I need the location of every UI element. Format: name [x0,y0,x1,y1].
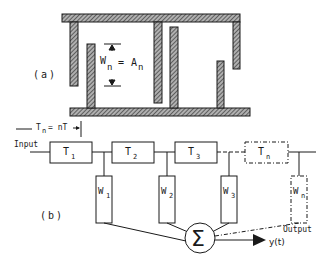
svg-text:1: 1 [71,153,75,161]
interdigital-transducer: W n = A n (a) [33,14,250,116]
tapped-delay-line: T n = nT Input T 1 T 2 T 3 T n W 1 [14,121,316,253]
part-b-label: (b) [40,210,64,221]
electrode-width-label: W [100,55,107,66]
svg-text:3: 3 [231,192,235,200]
svg-text:W: W [98,186,104,196]
finger-2 [87,44,95,108]
sum-symbol: Σ [191,226,205,251]
svg-text:T: T [125,146,131,157]
svg-text:1: 1 [106,192,110,200]
svg-text:n: n [301,192,305,200]
amplitude-label: A [131,57,137,68]
delay-subscript: n [42,127,46,135]
svg-text:W: W [293,186,299,196]
svg-text:T: T [188,146,194,157]
svg-text:2: 2 [169,192,173,200]
delay-label: T [36,123,41,132]
top-bus-bar [62,14,240,22]
equals-sign: = [118,57,124,68]
svg-text:n: n [266,153,270,161]
finger-4 [170,27,178,108]
svg-text:W: W [161,186,167,196]
svg-text:W: W [223,186,229,196]
part-a-label: (a) [33,69,57,80]
input-label: Input [14,140,38,149]
delay-value: = nT [48,123,67,132]
output-arrow-icon [253,234,266,246]
bottom-bus-bar [70,108,250,116]
finger-6 [217,61,224,108]
svg-text:T: T [258,146,264,157]
amplitude-subscript: n [138,62,143,72]
output-label: Output [283,225,312,234]
svg-text:3: 3 [196,153,200,161]
output-signal-label: y(t) [269,237,285,247]
svg-text:2: 2 [133,153,137,161]
finger-1 [70,22,78,86]
finger-5 [233,22,240,69]
svg-text:T: T [63,146,69,157]
transversal-filter-diagram: W n = A n (a) T n = nT Input T 1 T 2 T 3… [0,0,332,265]
electrode-width-subscript: n [107,62,112,72]
finger-3 [154,22,162,103]
